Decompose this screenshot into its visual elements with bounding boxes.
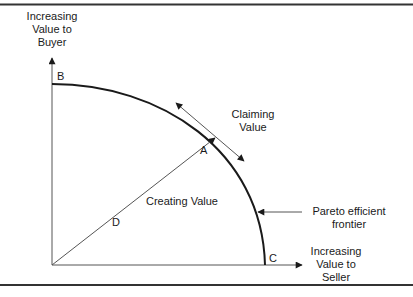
- point-d-label: D: [112, 216, 120, 229]
- y-axis-label-line-3: Buyer: [20, 36, 84, 49]
- point-b-label: B: [57, 70, 64, 83]
- y-axis-label-line-1: Increasing: [20, 10, 84, 23]
- frontier-line-2: frontier: [300, 218, 398, 231]
- y-axis-label-line-2: Value to: [20, 23, 84, 36]
- claiming-value-label: Claiming Value: [225, 108, 281, 134]
- frontier-line-1: Pareto efficient: [300, 205, 398, 218]
- point-c-label: C: [269, 252, 277, 265]
- frontier-label: Pareto efficient frontier: [300, 205, 398, 231]
- creating-value-label: Creating Value: [146, 195, 218, 208]
- point-a-label: A: [200, 144, 207, 157]
- x-axis-label-line-2: Value to: [304, 258, 368, 271]
- claiming-line-1: Claiming: [225, 108, 281, 121]
- x-axis-label: Increasing Value to Seller: [304, 245, 368, 284]
- claiming-line-2: Value: [225, 121, 281, 134]
- x-axis-label-line-1: Increasing: [304, 245, 368, 258]
- y-axis-label: Increasing Value to Buyer: [20, 10, 84, 49]
- x-axis-label-line-3: Seller: [304, 271, 368, 284]
